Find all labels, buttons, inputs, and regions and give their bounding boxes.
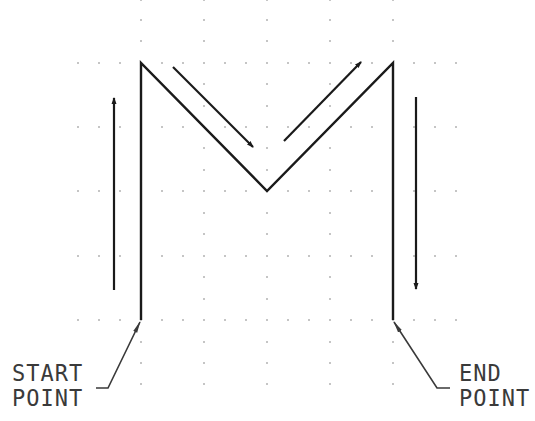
end-label-line2: POINT	[459, 386, 530, 411]
end-label-line1: END	[459, 361, 530, 386]
end-point-leader	[394, 322, 450, 388]
start-point-leader	[96, 322, 140, 388]
start-label-line2: POINT	[12, 386, 83, 411]
end-point-label: END POINT	[459, 361, 530, 411]
start-point-label: START POINT	[12, 361, 83, 411]
letter-m-stroke	[141, 63, 393, 320]
start-label-line1: START	[12, 361, 83, 386]
m-stroke-diagram	[0, 0, 535, 421]
diagonal-up-arrow-icon	[284, 62, 361, 141]
